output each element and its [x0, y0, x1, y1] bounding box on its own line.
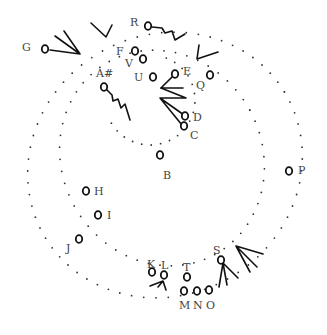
zigzag-mark-a: [106, 89, 130, 120]
fan-mark-e: [161, 76, 183, 88]
node-label: S: [213, 245, 221, 256]
node-label: C: [190, 130, 198, 141]
node-label: K: [147, 259, 155, 270]
node-p: [286, 167, 292, 175]
node-j: [76, 235, 82, 243]
node-l: [161, 271, 167, 279]
fan-mark-right: [236, 246, 263, 272]
node-n: [194, 287, 200, 295]
node-label: E: [183, 66, 191, 77]
node-label: H: [94, 186, 104, 197]
node-label: A#: [96, 68, 113, 79]
node-i: [95, 211, 101, 219]
node-layer: [42, 22, 292, 295]
v-mark-q: [197, 45, 218, 59]
arrow-mark-l: [150, 281, 166, 290]
node-f: [132, 47, 138, 55]
node-m: [181, 287, 187, 295]
node-label: U: [134, 72, 143, 83]
node-label: J: [66, 243, 70, 254]
node-r: [145, 22, 151, 30]
node-q: [207, 71, 213, 79]
node-label: R: [130, 17, 138, 28]
node-label: N: [193, 300, 203, 311]
node-label: F: [116, 46, 124, 57]
node-label: O: [206, 300, 215, 311]
node-label: V: [125, 58, 133, 69]
fan-mark-g: [50, 31, 80, 54]
node-label: L: [161, 260, 168, 271]
node-t: [184, 273, 190, 281]
node-u: [150, 73, 156, 81]
node-label: G: [22, 42, 31, 53]
node-d: [182, 112, 188, 120]
node-label: M: [179, 300, 190, 311]
node-h: [83, 187, 89, 195]
zigzag-mark-center: [160, 88, 186, 125]
v-mark-top-left: [91, 23, 112, 37]
fan-mark-s: [219, 263, 238, 287]
node-label: D: [193, 112, 202, 123]
node-label: B: [163, 170, 171, 181]
node-e: [172, 70, 178, 78]
zigzag-mark-r: [152, 27, 185, 40]
node-label: T: [183, 262, 190, 273]
node-a-sharp: [101, 83, 107, 91]
node-o: [206, 286, 212, 294]
node-g: [42, 45, 48, 53]
node-c: [181, 122, 187, 130]
node-label: P: [298, 165, 305, 176]
diagram-canvas: [0, 0, 327, 335]
node-b: [157, 151, 163, 159]
node-label: I: [107, 210, 111, 221]
node-s: [218, 256, 224, 264]
node-label: Q: [196, 80, 205, 91]
node-v: [140, 55, 146, 63]
